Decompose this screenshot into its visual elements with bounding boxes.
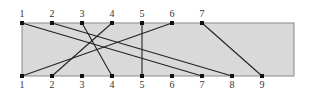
bottom-node-9	[260, 74, 264, 78]
top-node-7	[200, 21, 204, 25]
top-nodes: 1234567	[20, 8, 205, 25]
top-node-label: 5	[140, 8, 145, 19]
bottom-node-label: 7	[200, 79, 205, 90]
bottom-node-1	[20, 74, 24, 78]
bottom-node-label: 4	[110, 79, 115, 90]
bottom-node-3	[80, 74, 84, 78]
bottom-node-7	[200, 74, 204, 78]
bottom-node-label: 3	[80, 79, 85, 90]
top-node-2	[50, 21, 54, 25]
top-node-label: 7	[200, 8, 205, 19]
top-node-label: 4	[110, 8, 115, 19]
top-node-1	[20, 21, 24, 25]
top-node-label: 3	[80, 8, 85, 19]
matching-diagram: 1234567 123456789	[0, 0, 310, 92]
bottom-node-label: 9	[260, 79, 265, 90]
bottom-node-label: 2	[50, 79, 55, 90]
top-node-4	[110, 21, 114, 25]
top-node-label: 2	[50, 8, 55, 19]
top-node-label: 6	[170, 8, 175, 19]
bottom-node-2	[50, 74, 54, 78]
bottom-node-label: 1	[20, 79, 25, 90]
bottom-node-label: 8	[230, 79, 235, 90]
bottom-node-8	[230, 74, 234, 78]
top-node-5	[140, 21, 144, 25]
bottom-node-6	[170, 74, 174, 78]
bottom-node-label: 5	[140, 79, 145, 90]
top-node-label: 1	[20, 8, 25, 19]
top-node-6	[170, 21, 174, 25]
bottom-node-label: 6	[170, 79, 175, 90]
top-node-3	[80, 21, 84, 25]
bottom-node-4	[110, 74, 114, 78]
bottom-node-5	[140, 74, 144, 78]
